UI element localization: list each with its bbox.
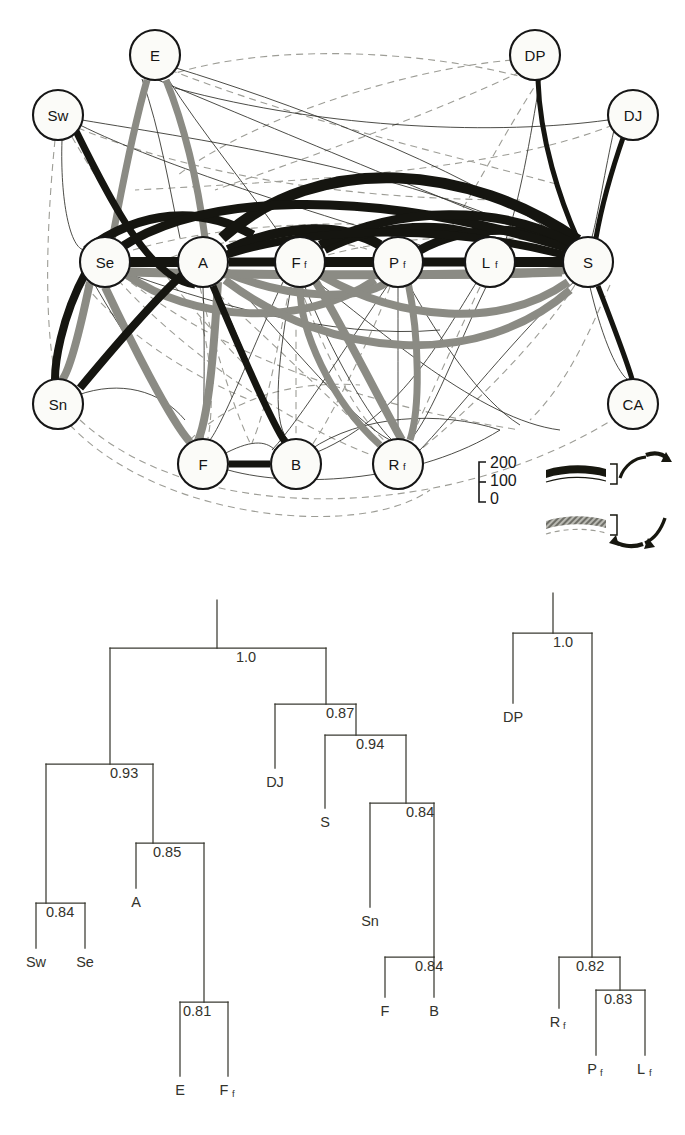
dendro-left-leaf-Sn: Sn [361,913,379,929]
node-CA[interactable]: CA [608,379,658,429]
node-E[interactable]: E [130,30,180,80]
dendro-left-leaf-Sw: Sw [26,954,47,970]
dendro-left-node-3: 0.87 [326,705,354,721]
svg-text:f: f [232,1088,235,1099]
node-F[interactable]: F [178,439,228,489]
node-sub-Ff: f [304,259,307,270]
dendro-left-leaf-E: E [175,1082,185,1098]
dendro-left-leaf-F: F [381,1003,390,1019]
dendro-left-node-7: 0.84 [406,804,434,820]
svg-text:P: P [587,1061,597,1077]
svg-text:L: L [637,1061,645,1077]
node-label-Rf: R [389,456,400,473]
node-label-F: F [198,456,207,473]
node-sub-Rf: f [403,461,406,472]
node-label-A: A [198,254,208,271]
dendro-left-node-8: 0.84 [415,958,443,974]
figure-root: E Sw DP DJ Se A F f P f [0,0,685,1135]
dendro-right-node-1: 1.0 [553,634,573,650]
node-Lf[interactable]: L f [465,237,515,287]
svg-text:f: f [563,1020,566,1031]
dendro-left-leaf-S: S [320,814,330,830]
dendro-left-leaf-B: B [429,1003,439,1019]
node-label-CA: CA [623,396,644,413]
node-Se[interactable]: Se [80,237,130,287]
legend-tick-0: 0 [490,490,499,507]
node-Rf[interactable]: R f [373,439,423,489]
node-A[interactable]: A [178,237,228,287]
node-S[interactable]: S [563,237,613,287]
node-Ff[interactable]: F f [275,237,325,287]
node-sub-Pf: f [403,259,406,270]
node-label-DJ: DJ [624,107,642,124]
node-label-Ff: F [291,254,300,271]
node-DP[interactable]: DP [510,30,560,80]
legend-tick-100: 100 [490,472,517,489]
node-Pf[interactable]: P f [373,237,423,287]
dendro-left-leaf-Se: Se [76,954,94,970]
dendro-right-node-2: 0.82 [576,958,604,974]
node-label-Lf: L [482,254,490,271]
node-sub-Lf: f [495,259,498,270]
node-label-S: S [583,254,593,271]
node-DJ[interactable]: DJ [608,90,658,140]
node-B[interactable]: B [271,439,321,489]
dendro-left-node-6: 0.84 [46,904,74,920]
figure-canvas: E Sw DP DJ Se A F f P f [0,0,685,1135]
node-Sw[interactable]: Sw [33,90,83,140]
dendro-left-node-2: 0.93 [110,765,138,781]
dendro-left-node-9: 0.81 [183,1003,211,1019]
node-label-Pf: P [389,254,399,271]
node-label-Sn: Sn [49,396,67,413]
dendro-left-leaf-DJ: DJ [266,774,284,790]
node-label-E: E [150,47,160,64]
node-Sn[interactable]: Sn [33,379,83,429]
legend-tick-200: 200 [490,454,517,471]
dendro-left-leaf-A: A [131,894,141,910]
svg-text:f: f [649,1067,652,1078]
dendro-left-node-4: 0.94 [356,736,384,752]
dendro-left-node-1: 1.0 [236,649,256,665]
node-label-DP: DP [525,47,546,64]
node-label-B: B [291,456,301,473]
dendro-left-node-5: 0.85 [153,844,181,860]
svg-text:F: F [220,1082,229,1098]
node-label-Se: Se [96,254,114,271]
dendro-right-node-3: 0.83 [604,991,632,1007]
dendro-right-leaf-DP: DP [503,709,523,725]
svg-text:f: f [600,1067,603,1078]
node-label-Sw: Sw [48,107,69,124]
svg-text:R: R [550,1014,560,1030]
